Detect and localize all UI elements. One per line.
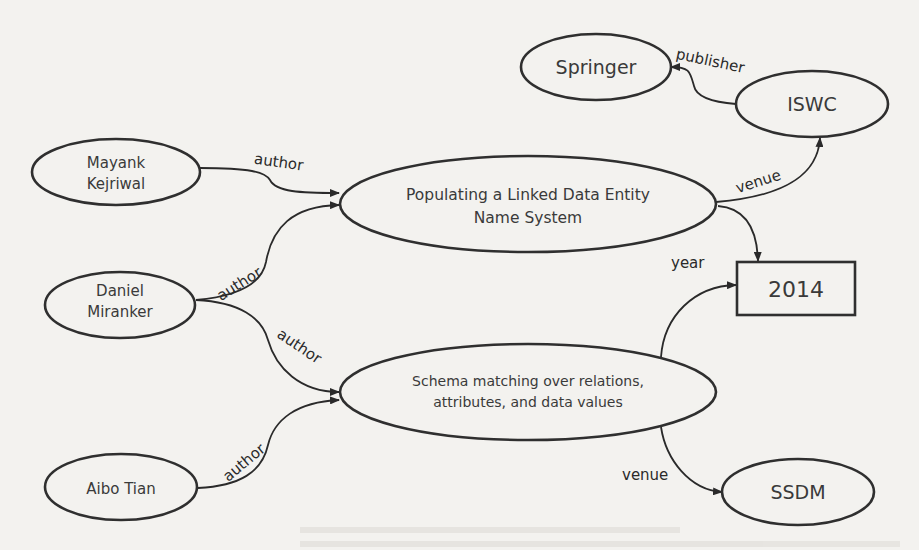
edge-author-mayank bbox=[200, 168, 339, 193]
node-springer[interactable]: Springer bbox=[521, 34, 671, 100]
node-aibo-tian[interactable]: Aibo Tian bbox=[45, 454, 197, 520]
edge-label-author-daniel-paper1: author bbox=[214, 263, 266, 305]
node-label: Kejriwal bbox=[87, 175, 145, 193]
bleed-through-text bbox=[300, 527, 900, 547]
edge-label-year: year bbox=[671, 254, 705, 272]
node-label: Schema matching over relations, bbox=[412, 373, 644, 389]
node-label: ISWC bbox=[787, 93, 837, 115]
node-label: Springer bbox=[556, 56, 637, 78]
node-label: attributes, and data values bbox=[433, 394, 623, 410]
node-year-2014[interactable]: 2014 bbox=[737, 262, 855, 315]
node-ssdm[interactable]: SSDM bbox=[722, 459, 874, 525]
node-label: Name System bbox=[474, 209, 582, 227]
edge-venue-ssdm bbox=[661, 427, 722, 492]
node-label: Aibo Tian bbox=[86, 480, 155, 498]
node-paper-schema-matching[interactable]: Schema matching over relations, attribut… bbox=[340, 344, 716, 440]
node-label: Miranker bbox=[87, 303, 153, 321]
edge-label-publisher: publisher bbox=[674, 45, 747, 77]
knowledge-graph-diagram: Mayank Kejriwal Daniel Miranker Aibo Tia… bbox=[0, 0, 919, 550]
edge-author-daniel-paper2 bbox=[196, 300, 339, 392]
node-mayank-kejriwal[interactable]: Mayank Kejriwal bbox=[32, 139, 200, 205]
edge-year-paper2 bbox=[661, 285, 736, 357]
node-label: Populating a Linked Data Entity bbox=[406, 186, 650, 204]
edge-author-aibo bbox=[198, 400, 339, 488]
edge-label-venue-iswc: venue bbox=[734, 166, 784, 197]
edge-label-author-daniel-paper2: author bbox=[274, 325, 326, 368]
node-label: SSDM bbox=[770, 481, 825, 503]
edge-year-paper1 bbox=[718, 206, 758, 261]
node-label: Mayank bbox=[87, 154, 146, 172]
node-paper-populating[interactable]: Populating a Linked Data Entity Name Sys… bbox=[340, 156, 716, 252]
node-label: 2014 bbox=[768, 277, 824, 302]
edge-label-author-mayank: author bbox=[253, 150, 305, 175]
node-daniel-miranker[interactable]: Daniel Miranker bbox=[45, 272, 195, 338]
node-label: Daniel bbox=[96, 282, 144, 300]
edge-label-venue-ssdm: venue bbox=[622, 466, 668, 484]
node-iswc[interactable]: ISWC bbox=[736, 71, 888, 137]
